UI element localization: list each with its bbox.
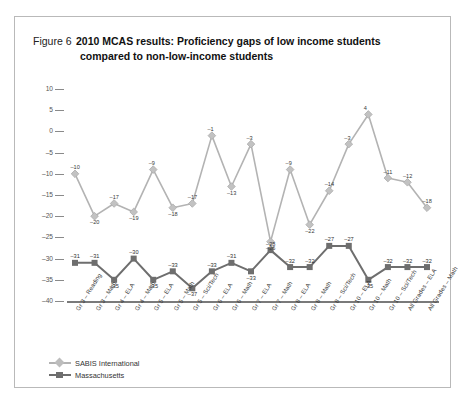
- figure-title-block: Figure 6 2010 MCAS results: Proficiency …: [33, 31, 433, 64]
- legend-item-sabis: SABIS International: [49, 357, 140, 369]
- y-axis-tick-mark: [55, 174, 64, 175]
- y-axis-tick-mark: [55, 110, 64, 111]
- data-point-label: –18: [423, 198, 432, 204]
- data-point-marker: [247, 140, 255, 148]
- figure-frame: Figure 6 2010 MCAS results: Proficiency …: [14, 16, 451, 388]
- y-axis-tick-label: –30: [31, 255, 53, 262]
- chart-plot-area: 1050–5–10–15–20–25–30–35–40–10–20–17–19–…: [67, 89, 439, 301]
- data-point-label: –1: [207, 126, 213, 132]
- series-line-sabis: [75, 114, 427, 241]
- data-point-marker: [286, 166, 294, 174]
- page-title-line2: compared to non-low-income students: [80, 49, 433, 64]
- data-point-label: –12: [403, 173, 412, 179]
- data-point-label: –33: [168, 262, 177, 268]
- data-point-label: –18: [168, 211, 177, 217]
- data-point-label: –32: [286, 258, 295, 264]
- data-point-marker: [170, 268, 176, 274]
- data-point-marker: [92, 260, 98, 266]
- data-point-marker: [287, 264, 293, 270]
- data-point-marker: [248, 268, 254, 274]
- data-point-label: –22: [305, 228, 314, 234]
- data-point-marker: [384, 174, 392, 182]
- data-point-marker: [307, 264, 313, 270]
- data-point-marker: [131, 256, 137, 262]
- data-point-label: –31: [227, 253, 236, 259]
- y-axis-tick-mark: [55, 131, 64, 132]
- data-point-label: –32: [403, 258, 412, 264]
- data-point-label: –32: [383, 258, 392, 264]
- y-axis-tick-mark: [55, 89, 64, 90]
- y-axis-tick-label: 0: [31, 127, 53, 134]
- data-point-label: –17: [188, 194, 197, 200]
- x-axis-labels: Gr 3 – ReadingGr 3 – MathGr 4 – ELAGr 4 …: [67, 305, 439, 365]
- data-point-label: –20: [90, 219, 99, 225]
- data-point-label: 4: [364, 105, 367, 111]
- data-point-marker: [385, 264, 391, 270]
- figure-label: Figure 6: [33, 35, 72, 47]
- data-point-label: –30: [129, 249, 138, 255]
- data-point-label: –31: [90, 253, 99, 259]
- data-point-marker: [208, 132, 216, 140]
- page-title: 2010 MCAS results: Proficiency gaps of l…: [76, 35, 381, 47]
- y-axis-tick-mark: [55, 280, 64, 281]
- data-point-label: –32: [305, 258, 314, 264]
- y-axis-tick-label: –15: [31, 191, 53, 198]
- y-axis-tick-mark: [55, 259, 64, 260]
- data-point-marker: [228, 260, 234, 266]
- y-axis-tick-label: –20: [31, 212, 53, 219]
- y-axis-tick-mark: [55, 237, 64, 238]
- y-axis-tick-label: –40: [31, 297, 53, 304]
- data-point-label: –27: [325, 236, 334, 242]
- data-point-label: –31: [71, 253, 80, 259]
- chart-legend: SABIS International Massachusetts: [49, 357, 140, 381]
- data-point-label: –3: [247, 135, 253, 141]
- data-point-marker: [149, 166, 157, 174]
- legend-item-massachusetts: Massachusetts: [49, 369, 140, 381]
- data-point-marker: [325, 187, 333, 195]
- y-axis-tick-mark: [55, 216, 64, 217]
- y-axis-tick-mark: [55, 195, 64, 196]
- data-point-label: –11: [383, 169, 392, 175]
- y-axis-tick-mark: [55, 301, 64, 302]
- data-point-label: –13: [227, 190, 236, 196]
- data-point-label: –33: [207, 262, 216, 268]
- y-axis-tick-label: 5: [31, 106, 53, 113]
- data-point-marker: [326, 243, 332, 249]
- data-point-marker: [72, 260, 78, 266]
- chart-series-svg: [67, 89, 439, 301]
- y-axis-tick-label: –10: [31, 170, 53, 177]
- data-point-label: –32: [423, 258, 432, 264]
- data-point-marker: [189, 200, 197, 208]
- data-point-marker: [346, 243, 352, 249]
- data-point-label: –27: [344, 236, 353, 242]
- data-point-label: –9: [149, 160, 155, 166]
- data-point-label: –14: [325, 181, 334, 187]
- legend-marker-diamond-icon: [49, 359, 71, 367]
- y-axis-tick-mark: [55, 153, 64, 154]
- legend-marker-square-icon: [49, 371, 71, 379]
- data-point-label: –10: [71, 164, 80, 170]
- data-point-marker: [404, 264, 410, 270]
- y-axis-tick-label: –25: [31, 233, 53, 240]
- data-point-label: –17: [110, 194, 119, 200]
- data-point-label: –28: [266, 241, 275, 247]
- data-point-label: –3: [344, 135, 350, 141]
- data-point-label: –19: [129, 215, 138, 221]
- y-axis-tick-label: –5: [31, 149, 53, 156]
- data-point-label: –9: [286, 160, 292, 166]
- data-point-marker: [71, 170, 79, 178]
- legend-label-massachusetts: Massachusetts: [75, 371, 124, 380]
- y-axis-tick-label: –35: [31, 276, 53, 283]
- y-axis-tick-label: 10: [31, 85, 53, 92]
- legend-label-sabis: SABIS International: [75, 359, 140, 368]
